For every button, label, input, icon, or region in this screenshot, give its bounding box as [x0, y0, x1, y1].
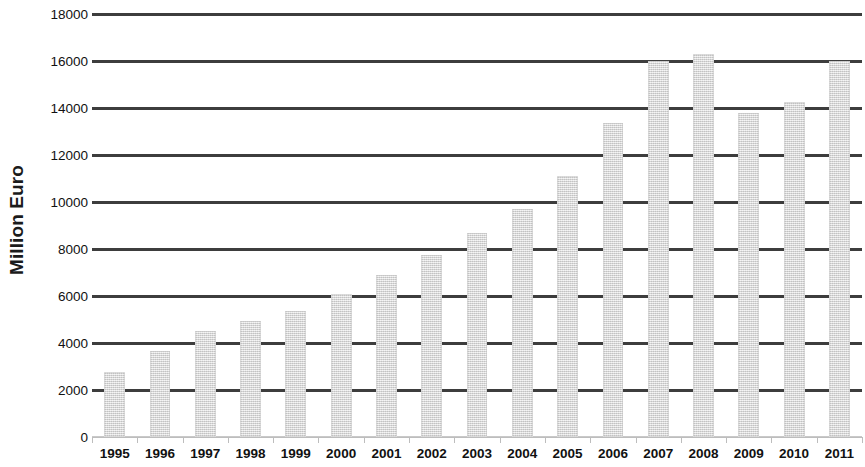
bar-slot [545, 14, 590, 437]
x-axis-tick-label: 2001 [364, 443, 409, 467]
x-axis-tick-label: 2000 [318, 443, 363, 467]
bar-slot [318, 14, 363, 437]
x-axis-tick-label: 1997 [183, 443, 228, 467]
x-axis-tick-label: 1995 [92, 443, 137, 467]
x-axis-tick-label: 2010 [771, 443, 816, 467]
bar-2003 [467, 233, 488, 437]
y-axis-title: Million Euro [0, 0, 34, 440]
bar-1998 [240, 321, 261, 437]
y-axis-tick-labels: 1800016000140001200010000800060004000200… [30, 0, 88, 440]
bar-2001 [376, 275, 397, 437]
bar-slot [681, 14, 726, 437]
y-axis-tick-label: 8000 [30, 242, 88, 257]
bar-slot [590, 14, 635, 437]
bar-2005 [557, 176, 578, 437]
bar-chart: Million Euro 180001600014000120001000080… [0, 0, 865, 467]
x-axis-tick-label: 2006 [590, 443, 635, 467]
y-axis-tick-label: 14000 [30, 101, 88, 116]
y-axis-tick-label: 6000 [30, 289, 88, 304]
bar-2006 [603, 123, 624, 437]
bar-1996 [150, 351, 171, 437]
y-axis-tick-label: 0 [30, 430, 88, 445]
bar-slot [92, 14, 137, 437]
bar-2009 [738, 113, 759, 437]
x-axis-tick-labels: 1995199619971998199920002001200220032004… [92, 443, 862, 467]
x-axis-tick [862, 437, 863, 443]
x-axis-tick-label: 2005 [545, 443, 590, 467]
bar-1995 [104, 372, 125, 437]
y-axis-title-text: Million Euro [6, 165, 28, 275]
y-axis-tick-label: 16000 [30, 54, 88, 69]
x-axis-tick-label: 2011 [817, 443, 862, 467]
bar-slot [183, 14, 228, 437]
bar-1999 [285, 311, 306, 437]
x-axis-tick-label: 2009 [726, 443, 771, 467]
bar-2004 [512, 209, 533, 437]
bar-2011 [829, 61, 850, 437]
x-axis-tick-label: 2002 [409, 443, 454, 467]
x-axis-tick-label: 2003 [454, 443, 499, 467]
bars-group [92, 14, 862, 437]
bar-slot [726, 14, 771, 437]
bar-slot [817, 14, 862, 437]
bar-slot [636, 14, 681, 437]
y-axis-tick-label: 18000 [30, 7, 88, 22]
bar-slot [273, 14, 318, 437]
bar-2000 [331, 294, 352, 437]
bar-2007 [648, 61, 669, 437]
x-axis-tick-label: 1996 [137, 443, 182, 467]
bar-slot [137, 14, 182, 437]
x-axis-tick-label: 2004 [500, 443, 545, 467]
bar-slot [228, 14, 273, 437]
bar-2010 [784, 102, 805, 437]
y-axis-tick-label: 2000 [30, 383, 88, 398]
bar-slot [409, 14, 454, 437]
bar-2008 [693, 54, 714, 437]
bar-slot [500, 14, 545, 437]
plot-area [92, 14, 862, 437]
bar-slot [454, 14, 499, 437]
bar-slot [364, 14, 409, 437]
x-axis-tick-label: 2008 [681, 443, 726, 467]
y-axis-tick-label: 4000 [30, 336, 88, 351]
x-axis-tick-label: 2007 [636, 443, 681, 467]
bar-slot [771, 14, 816, 437]
bar-1997 [195, 331, 216, 437]
y-axis-tick-label: 12000 [30, 148, 88, 163]
bar-2002 [421, 255, 442, 437]
y-axis-tick-label: 10000 [30, 195, 88, 210]
x-axis-tick-label: 1999 [273, 443, 318, 467]
x-axis-tick-label: 1998 [228, 443, 273, 467]
